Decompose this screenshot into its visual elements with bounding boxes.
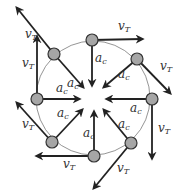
acceleration-label-top-right: ac — [118, 67, 130, 82]
velocity-label-top-right: vT — [160, 59, 173, 74]
acceleration-label-right: ac — [130, 101, 142, 116]
acceleration-label-top-left: ac — [67, 76, 79, 91]
ball-right — [146, 93, 158, 105]
ball-top-right — [131, 53, 143, 65]
ball-top-left — [48, 48, 60, 60]
ball-left — [31, 93, 43, 105]
velocity-label-bottom-left: vT — [22, 117, 35, 132]
acceleration-label-top: ac — [95, 51, 107, 66]
circular-motion-diagram: vTacvTacvTacvTacvTacvTacvTacvTac — [0, 0, 185, 194]
velocity-label-top: vT — [118, 19, 131, 34]
ball-top — [86, 34, 98, 46]
ball-bottom — [88, 150, 100, 162]
velocity-arrow-top — [92, 39, 142, 40]
velocity-arrow-top-left — [17, 8, 54, 54]
ball-bottom-left — [46, 136, 58, 148]
velocity-label-bottom-right: vT — [117, 161, 130, 176]
acceleration-label-bottom-right: ac — [118, 117, 130, 132]
velocity-label-left: vT — [22, 56, 35, 71]
acceleration-label-bottom-left: ac — [57, 106, 69, 121]
velocity-arrow-bottom-right — [94, 143, 131, 188]
ball-bottom-right — [125, 137, 137, 149]
velocity-label-bottom: vT — [63, 157, 76, 172]
velocity-label-right: vT — [158, 121, 171, 136]
velocity-label-top-left: vT — [25, 27, 38, 42]
